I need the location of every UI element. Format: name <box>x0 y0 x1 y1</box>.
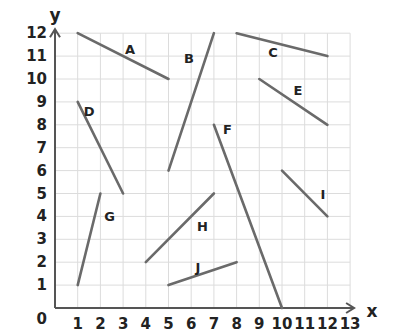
segment-label-f: F <box>223 122 232 137</box>
x-axis-label: x <box>367 301 378 321</box>
segment-labels: ABCDEFGHIJ <box>84 42 326 275</box>
segment-label-g: G <box>104 209 115 224</box>
y-tick-label: 3 <box>37 230 47 248</box>
y-tick-label: 1 <box>37 276 47 294</box>
segment-label-h: H <box>197 219 208 234</box>
y-tick-label: 2 <box>37 253 47 271</box>
segment-label-d: D <box>84 104 95 119</box>
coordinate-grid-diagram: 123456789101112131234567891011120xy ABCD… <box>0 0 402 335</box>
x-tick-label: 7 <box>209 315 219 333</box>
segment-j <box>169 262 237 285</box>
x-tick-label: 1 <box>72 315 82 333</box>
x-tick-label: 11 <box>294 315 315 333</box>
x-tick-label: 13 <box>340 315 361 333</box>
segment-label-e: E <box>293 83 302 98</box>
x-tick-label: 6 <box>186 315 196 333</box>
segment-label-b: B <box>184 51 194 66</box>
y-tick-label: 7 <box>37 139 47 157</box>
origin-label: 0 <box>37 310 47 328</box>
x-tick-label: 12 <box>317 315 338 333</box>
y-tick-label: 8 <box>37 116 47 134</box>
y-tick-label: 4 <box>37 207 47 225</box>
x-tick-label: 5 <box>163 315 173 333</box>
x-tick-label: 4 <box>141 315 151 333</box>
y-tick-label: 10 <box>26 70 47 88</box>
x-tick-label: 9 <box>254 315 264 333</box>
y-tick-label: 11 <box>26 47 47 65</box>
x-tick-label: 10 <box>272 315 293 333</box>
y-tick-label: 12 <box>26 24 47 42</box>
y-tick-label: 6 <box>37 162 47 180</box>
y-axis-label: y <box>49 5 60 25</box>
grid-lines <box>55 33 350 308</box>
x-tick-label: 8 <box>231 315 241 333</box>
x-tick-label: 2 <box>95 315 105 333</box>
y-tick-label: 9 <box>37 93 47 111</box>
segment-label-c: C <box>268 45 278 60</box>
y-tick-label: 5 <box>37 185 47 203</box>
segment-label-j: J <box>195 260 201 275</box>
segment-label-i: I <box>320 187 325 202</box>
segment-label-a: A <box>125 42 135 57</box>
x-tick-label: 3 <box>118 315 128 333</box>
